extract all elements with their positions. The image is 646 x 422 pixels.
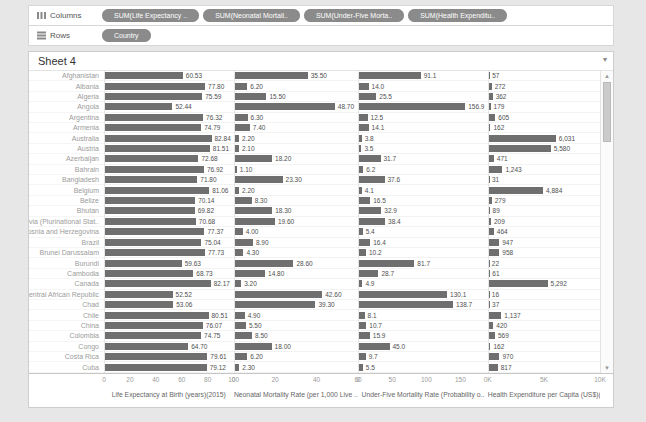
bar[interactable] (235, 197, 252, 204)
bar[interactable] (235, 249, 244, 256)
country-label[interactable]: Australia (29, 133, 104, 143)
bar[interactable] (235, 93, 267, 100)
bar[interactable] (359, 72, 421, 79)
bar[interactable] (489, 249, 500, 256)
country-label[interactable]: Chad (29, 300, 104, 310)
pill-sum-neonatal-mortality[interactable]: SUM(Neonatal Mortali.. (203, 9, 300, 22)
bar[interactable] (105, 166, 204, 173)
bar[interactable] (489, 322, 494, 329)
bar[interactable] (105, 249, 205, 256)
bar[interactable] (489, 93, 493, 100)
bar[interactable] (105, 228, 204, 235)
pill-sum-life-expectancy[interactable]: SUM(Life Expectancy .. (102, 9, 199, 22)
bar[interactable] (489, 197, 492, 204)
bar[interactable] (489, 207, 490, 214)
bar[interactable] (359, 218, 385, 225)
bar[interactable] (105, 260, 182, 267)
bar[interactable] (489, 135, 556, 142)
country-label[interactable]: Cuba (29, 362, 104, 372)
country-label[interactable]: Algeria (29, 92, 104, 102)
bar[interactable] (489, 228, 494, 235)
country-label[interactable]: China (29, 321, 104, 331)
bar[interactable] (359, 176, 384, 183)
country-label[interactable]: Canada (29, 279, 104, 289)
bar[interactable] (235, 270, 265, 277)
bar[interactable] (105, 353, 207, 360)
bar[interactable] (489, 364, 498, 371)
bar[interactable] (105, 93, 202, 100)
country-label[interactable]: Bangladesh (29, 175, 104, 185)
bar[interactable] (105, 291, 173, 298)
bar[interactable] (235, 176, 283, 183)
bar[interactable] (489, 155, 494, 162)
bar[interactable] (235, 124, 250, 131)
bar[interactable] (359, 145, 361, 152)
bar[interactable] (235, 114, 248, 121)
bar[interactable] (105, 364, 207, 371)
country-label[interactable]: Burundi (29, 258, 104, 268)
bar[interactable] (359, 249, 366, 256)
bar[interactable] (235, 155, 272, 162)
bar[interactable] (359, 239, 370, 246)
country-label[interactable]: Central African Republic (29, 290, 104, 300)
bar[interactable] (105, 343, 188, 350)
vertical-scrollbar[interactable]: ▲ ▼ (600, 71, 613, 373)
bar[interactable] (105, 114, 203, 121)
bar[interactable] (489, 166, 503, 173)
bar[interactable] (359, 291, 447, 298)
country-label[interactable]: Brazil (29, 238, 104, 248)
bar[interactable] (235, 312, 245, 319)
country-label[interactable]: Brunei Darussalam (29, 248, 104, 258)
bar[interactable] (489, 72, 490, 79)
country-label[interactable]: Bolivia (Plurinational Stat.. (29, 217, 104, 227)
bar[interactable] (105, 145, 210, 152)
bar[interactable] (105, 176, 197, 183)
bar[interactable] (489, 145, 551, 152)
bar[interactable] (235, 187, 240, 194)
bar[interactable] (489, 187, 543, 194)
bar[interactable] (105, 207, 195, 214)
country-label[interactable]: Austria (29, 144, 104, 154)
bar[interactable] (489, 332, 495, 339)
bar[interactable] (105, 83, 205, 90)
sheet-menu-caret-icon[interactable]: ▾ (603, 55, 607, 64)
country-label[interactable]: Angola (29, 102, 104, 112)
bar[interactable] (235, 239, 253, 246)
bar[interactable] (359, 332, 370, 339)
bar[interactable] (359, 270, 378, 277)
bar[interactable] (105, 312, 209, 319)
bar[interactable] (235, 280, 242, 287)
bar[interactable] (105, 187, 209, 194)
country-label[interactable]: Costa Rica (29, 352, 104, 362)
country-label[interactable]: Chile (29, 310, 104, 320)
pill-sum-health-expenditure[interactable]: SUM(Health Expenditu.. (408, 9, 507, 22)
bar[interactable] (105, 155, 198, 162)
bar[interactable] (105, 135, 212, 142)
bar[interactable] (235, 218, 275, 225)
bar[interactable] (359, 228, 363, 235)
bar[interactable] (489, 103, 491, 110)
bar[interactable] (235, 332, 252, 339)
bar[interactable] (235, 103, 335, 110)
bar[interactable] (489, 239, 500, 246)
bar[interactable] (489, 270, 490, 277)
bar[interactable] (359, 280, 362, 287)
bar[interactable] (105, 301, 173, 308)
bar[interactable] (489, 83, 492, 90)
bar[interactable] (235, 301, 316, 308)
country-label[interactable]: Congo (29, 342, 104, 352)
country-label[interactable]: Cambodia (29, 269, 104, 279)
country-label[interactable]: Afghanistan (29, 71, 104, 81)
country-label[interactable]: Bahrain (29, 165, 104, 175)
bar[interactable] (235, 145, 239, 152)
bar[interactable] (359, 260, 414, 267)
bar[interactable] (235, 228, 243, 235)
country-label[interactable]: Argentina (29, 113, 104, 123)
scroll-up-icon[interactable]: ▲ (601, 72, 613, 80)
pill-country[interactable]: Country (102, 29, 151, 42)
bar[interactable] (235, 291, 323, 298)
bar[interactable] (489, 343, 491, 350)
country-label[interactable]: Bhutan (29, 206, 104, 216)
bar[interactable] (489, 114, 496, 121)
bar[interactable] (235, 343, 272, 350)
